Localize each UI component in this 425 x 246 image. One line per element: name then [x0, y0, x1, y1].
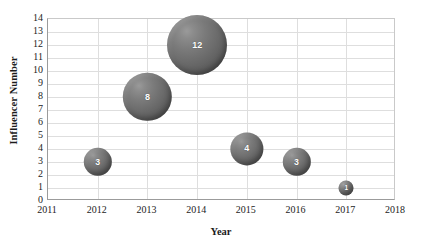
y-axis-tick-label: 10: [5, 65, 47, 75]
gridline-horizontal: [48, 84, 394, 85]
gridline-vertical: [247, 19, 248, 199]
x-axis-title: Year: [47, 226, 395, 237]
y-axis-tick-label: 3: [5, 156, 47, 166]
y-axis-tick-label: 2: [5, 169, 47, 179]
bubble-data-point[interactable]: 3: [282, 148, 310, 176]
y-axis-tick-label: 8: [5, 91, 47, 101]
gridline-horizontal: [48, 110, 394, 111]
y-axis-tick-label: 4: [5, 143, 47, 153]
x-axis-tick-label: 2018: [365, 203, 425, 216]
x-axis-tick-labels: 20112012201320142015201620172018: [47, 203, 395, 221]
plot-area: 3812431: [47, 18, 395, 200]
gridline-vertical: [346, 19, 347, 199]
bubble-data-point[interactable]: 1: [339, 181, 354, 196]
bubble-chart: Influencer Number 01234567891011121314 3…: [0, 0, 425, 246]
bubble-value-label: 8: [145, 92, 150, 101]
bubble-data-point[interactable]: 8: [123, 73, 171, 121]
y-axis-tick-label: 5: [5, 130, 47, 140]
y-axis-tick-label: 11: [5, 52, 47, 62]
bubble-value-label: 3: [95, 158, 100, 167]
gridline-horizontal: [48, 97, 394, 98]
bubble-value-label: 1: [344, 185, 348, 192]
bubble-data-point[interactable]: 4: [230, 132, 263, 165]
gridline-horizontal: [48, 136, 394, 137]
y-axis-tick-label: 1: [5, 182, 47, 192]
gridline-horizontal: [48, 71, 394, 72]
bubble-data-point[interactable]: 3: [84, 148, 112, 176]
y-axis-tick-label: 12: [5, 39, 47, 49]
y-axis-tick-label: 6: [5, 117, 47, 127]
gridline-horizontal: [48, 123, 394, 124]
y-axis-tick-labels: 01234567891011121314: [0, 18, 47, 200]
bubble-data-point[interactable]: 12: [167, 15, 227, 75]
y-axis-tick-label: 14: [5, 13, 47, 23]
y-axis-tick-label: 7: [5, 104, 47, 114]
y-axis-tick-label: 9: [5, 78, 47, 88]
bubble-value-label: 4: [244, 145, 249, 154]
y-axis-tick-label: 13: [5, 26, 47, 36]
bubble-value-label: 3: [294, 158, 299, 167]
bubble-value-label: 12: [192, 41, 202, 50]
